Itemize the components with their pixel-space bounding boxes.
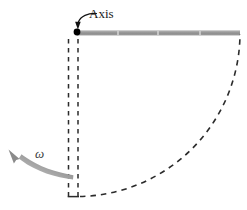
rod-down-position-outline <box>69 39 79 197</box>
swing-arc <box>80 34 240 197</box>
angular-velocity-label: ω <box>35 147 44 160</box>
rod <box>77 31 240 36</box>
figure-canvas <box>0 0 247 210</box>
axis-label: Axis <box>89 7 114 20</box>
physics-figure-rotating-rod: Axis ω <box>0 0 247 210</box>
pivot-dot <box>74 29 81 36</box>
